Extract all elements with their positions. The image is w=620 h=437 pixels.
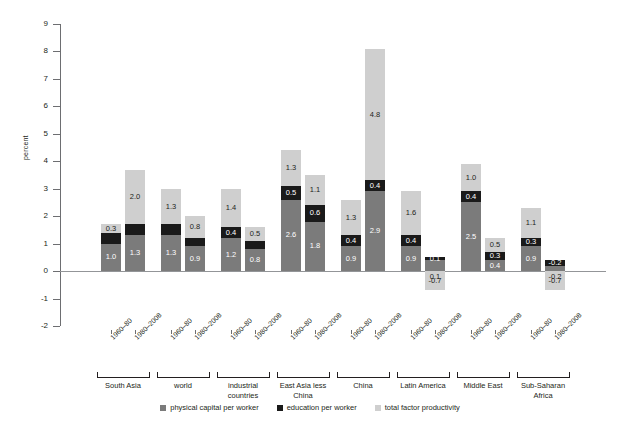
bar-column[interactable]: 0.90.31.1 [521,24,541,326]
group-bracket-tick [509,372,510,378]
legend-item-physical-capital: physical capital per worker [160,403,258,412]
y-axis-title: percent [22,135,29,160]
bar-segment-value: 0.6 [305,209,325,217]
group-bracket-tick [517,372,518,378]
bar-segment-tfp: 1.3 [341,200,361,236]
bar-segment-pc: 0.8 [245,249,265,271]
y-tick-mark [53,189,60,190]
bar-segment-pc: 2.9 [365,191,385,271]
bar-column[interactable]: -0.2-0.7-0.2 [545,24,565,326]
bar-segment-value: 1.0 [461,174,481,182]
bar-segment-value: 2.9 [365,227,385,235]
bar-segment-value: 0.4 [341,237,361,245]
y-tick-label: 1 [44,239,48,248]
bar-segment-ed: 0.6 [305,205,325,221]
bar-column[interactable]: 1.31.3 [161,24,181,326]
bar-column[interactable]: 2.90.44.8 [365,24,385,326]
bar-column[interactable]: 2.50.41.0 [461,24,481,326]
bar-segment-value: 1.1 [521,219,541,227]
bar-column[interactable]: 0.90.41.3 [341,24,361,326]
group-label: industrialcountries [217,381,269,400]
bar-segment-tfp: 0.8 [185,216,205,238]
y-tick-mark [53,106,60,107]
group-label: East Asia lessChina [277,381,329,400]
bar-segment-tfp: 1.0 [461,164,481,191]
bar-segment-value: 4.8 [365,111,385,119]
bar-segment-value: 1.8 [305,242,325,250]
group-bracket-line [457,377,509,378]
bar-segment-pc: 1.3 [125,235,145,271]
group-label: China [337,381,389,391]
y-tick-mark [53,134,60,135]
bar-segment-ed: 0.3 [485,252,505,260]
bar-segment-value: 0.9 [401,255,421,263]
bar-column[interactable]: 1.80.61.1 [305,24,325,326]
y-tick-label: 6 [44,101,48,110]
bar-column[interactable]: 0.90.41.6 [401,24,421,326]
bar-segment-tfp: 1.1 [305,175,325,205]
bar-segment-pc: 2.6 [281,200,301,271]
legend-swatch-education [277,405,283,411]
bar-segment-value: -0.2 [545,259,565,267]
legend-item-education: education per worker [277,403,357,412]
bar-column[interactable]: 0.80.5 [245,24,265,326]
group-bracket-tick [209,372,210,378]
bar-column[interactable]: 0.40.30.5 [485,24,505,326]
bar-segment-value: 0.4 [485,262,505,270]
y-tick-mark [53,244,60,245]
group-bracket-line [337,377,389,378]
bar-segment-value: 1.3 [161,249,181,257]
bar-column[interactable]: 1.20.41.4 [221,24,241,326]
bar-segment-ed: 0.4 [401,235,421,246]
y-tick-mark [53,24,60,25]
bar-segment-value: 0.1 [425,272,445,281]
bar-segment-tfp: 1.6 [401,191,421,235]
group-label: Sub-SaharanAfrica [517,381,569,400]
bar-segment-ed [101,233,121,244]
plot-area: 1.00.31.32.01.31.30.90.81.20.41.40.80.52… [60,24,606,326]
bar-segment-value: 0.5 [245,230,265,238]
bar-column[interactable]: 1.00.3 [101,24,121,326]
bar-segment-tfp: 2.0 [125,170,145,225]
bar-segment-value: 0.3 [521,238,541,246]
group-bracket-tick [277,372,278,378]
bar-segment-value: 0.9 [521,255,541,263]
group-bracket-tick [397,372,398,378]
productivity-decomposition-chart: percent 9876543210-1-2 1.00.31.32.01.31.… [0,0,620,437]
group-bracket-tick [217,372,218,378]
bar-segment-value: 2.6 [281,231,301,239]
bar-segment-tfp: 0.5 [485,238,505,252]
bar-segment-value: 1.2 [221,251,241,259]
group-bracket-tick [389,372,390,378]
group-bracket-tick [569,372,570,378]
bar-segment-value: 0.4 [365,182,385,190]
group-label: world [157,381,209,391]
bar-column[interactable]: 0.90.8 [185,24,205,326]
bar-segment-value: 0.3 [101,225,121,233]
legend-label-physical-capital: physical capital per worker [170,403,258,412]
bar-segment-pc: 0.9 [521,246,541,271]
bar-segment-value: 1.3 [281,164,301,172]
y-tick-label: 5 [44,129,48,138]
y-tick-label: 4 [44,156,48,165]
bar-column[interactable]: 1.32.0 [125,24,145,326]
bar-segment-value: 0.4 [401,237,421,245]
bar-segment-value: 0.9 [341,255,361,263]
y-tick-mark [53,51,60,52]
bar-segment-value: 1.6 [401,209,421,217]
bar-segment-pc: 0.4 [485,260,505,271]
bar-segment-value: 1.3 [341,214,361,222]
bar-segment-value: 2.0 [125,193,145,201]
group-bracket-tick [457,372,458,378]
legend-swatch-physical-capital [160,405,166,411]
bar-column[interactable]: 2.60.51.3 [281,24,301,326]
chart-legend: physical capital per worker education pe… [0,403,620,412]
group-bracket-tick [157,372,158,378]
bar-column[interactable]: 0.1-0.70.1 [425,24,445,326]
y-tick-label: 2 [44,211,48,220]
group-bracket-line [277,377,329,378]
bar-segment-value: 0.5 [281,189,301,197]
group-bracket-tick [97,372,98,378]
group-bracket-line [97,377,149,378]
y-tick-mark [53,271,60,272]
